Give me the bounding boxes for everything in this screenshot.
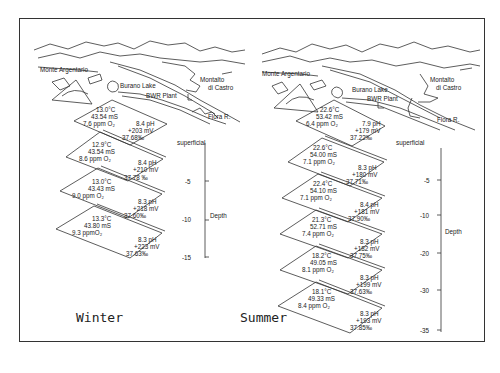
tick-label: -35 <box>420 327 430 334</box>
conductivity: 49.05 mS <box>310 259 337 266</box>
salinity: 37.63‰ <box>126 250 149 257</box>
oxygen: 9.0 ppm O₂ <box>72 192 104 200</box>
winter-layer-2: 12.9°C 43.54 mS 8.6 ppm O₂ 8.4 pH +210 m… <box>79 141 159 181</box>
temperature: 22.6°C <box>320 106 340 113</box>
redox-potential: +179 mV <box>355 127 381 134</box>
redox-potential: +199 mV <box>356 281 382 288</box>
salinity: 37.90‰ <box>348 215 371 222</box>
label-bwr-plant: BWR Plant <box>146 92 177 99</box>
winter-depth-axis <box>205 143 209 258</box>
oxygen: 7.6 ppm O₂ <box>83 120 115 128</box>
redox-potential: +210 mV <box>133 166 159 173</box>
oxygen: 6.4 ppm O₂ <box>306 120 338 128</box>
oxygen: 9.3 ppmO₂ <box>72 229 103 237</box>
temperature: 13.3°C <box>92 215 112 222</box>
conductivity: 53.42 mS <box>316 113 343 120</box>
redox-potential: +223 mV <box>134 243 160 250</box>
label-montalto: Montalto <box>200 76 225 83</box>
label-burano-lake: Burano Lake <box>352 86 388 93</box>
label-bwr-plant: BWR Plant <box>367 95 398 102</box>
temperature: 21.3°C <box>312 216 332 223</box>
label-superficial: superficial <box>177 139 205 147</box>
conductivity: 43.80 mS <box>84 222 111 229</box>
seawater-profile-diagram: Monte Argentario Burano Lake BWR Plant M… <box>0 0 500 373</box>
salinity: 37.60‰ <box>124 212 147 219</box>
redox-potential: +182 mV <box>354 245 380 252</box>
label-depth: Depth <box>210 212 227 220</box>
label-fiora-river: Flora R. <box>208 113 231 120</box>
temperature: 22.4°C <box>313 180 333 187</box>
label-monte-argentario: Monte Argentario <box>262 70 310 78</box>
conductivity: 54.10 mS <box>310 187 337 194</box>
oxygen: 7.4 ppm O₂ <box>302 230 334 238</box>
redox-potential: +203 mV <box>128 127 154 134</box>
label-montalto: Montalto <box>430 76 455 83</box>
tick-label: -10 <box>420 212 430 219</box>
oxygen: 8.4 ppm O₂ <box>298 302 330 310</box>
salinity: 37.22‰ <box>350 134 373 141</box>
temperature: 12.9°C <box>92 141 112 148</box>
temperature: 18.1°C <box>312 288 332 295</box>
label-depth: Depth <box>445 228 462 236</box>
season-label-summer: Summer <box>240 310 287 325</box>
label-di-castro: di Castro <box>436 84 462 91</box>
winter-layer-1: 13.0°C 43.54 mS 7.6 ppm O₂ 8.4 pH +203 m… <box>83 106 155 141</box>
tick-label: -20 <box>420 250 430 257</box>
winter-layer-4: 13.3°C 43.80 mS 9.3 ppmO₂ 8.3 pH +223 mV… <box>72 215 160 257</box>
conductivity: 52.71 mS <box>310 223 337 230</box>
salinity: 37.78 ‰ <box>124 174 149 181</box>
oxygen: 7.1 ppm O₂ <box>303 158 335 166</box>
oxygen: 8.6 ppm O₂ <box>79 155 111 163</box>
tick-label: -5 <box>185 178 191 185</box>
tick-label: -30 <box>420 287 430 294</box>
redox-potential: +180 mV <box>352 171 378 178</box>
tick-label: -5 <box>424 177 430 184</box>
salinity: 37.85‰ <box>350 324 373 331</box>
temperature: 13.0°C <box>96 106 116 113</box>
conductivity: 54.00 mS <box>310 151 337 158</box>
label-superficial: superficial <box>396 139 424 147</box>
temperature: 18.2°C <box>312 252 332 259</box>
summer-layer-2: 22.6°C 54.00 mS 7.1 ppm O₂ 8.3 pH +180 m… <box>303 144 378 185</box>
salinity: 37.63‰ <box>350 288 373 295</box>
redox-potential: +218 mV <box>133 205 159 212</box>
temperature: 13.0°C <box>92 178 112 185</box>
temperature: 22.6°C <box>313 144 333 151</box>
salinity: 37.71‰ <box>346 178 369 185</box>
tick-label: -10 <box>182 216 192 223</box>
salinity: 37.68‰ <box>122 134 145 141</box>
conductivity: 49.33 mS <box>308 295 335 302</box>
tick-label: -15 <box>182 254 192 261</box>
oxygen: 8.1 ppm O₂ <box>302 266 334 274</box>
oxygen: 7.1 ppm O₂ <box>300 194 332 202</box>
conductivity: 43.54 mS <box>91 113 118 120</box>
label-monte-argentario: Monte Argentario <box>40 66 88 74</box>
conductivity: 43.43 mS <box>88 185 115 192</box>
redox-potential: +181 mV <box>354 208 380 215</box>
salinity: 37.75‰ <box>350 252 373 259</box>
redox-potential: +193 mV <box>356 317 382 324</box>
label-burano-lake: Burano Lake <box>120 82 156 89</box>
label-di-castro: di Castro <box>208 84 234 91</box>
label-fiora-river: Flora R. <box>437 116 460 123</box>
winter-layer-data: 13.0°C 43.54 mS 7.6 ppm O₂ 8.4 pH +203 m… <box>72 106 160 257</box>
conductivity: 43.54 mS <box>88 148 115 155</box>
season-label-winter: Winter <box>76 310 123 325</box>
summer-depth-axis <box>437 148 441 332</box>
